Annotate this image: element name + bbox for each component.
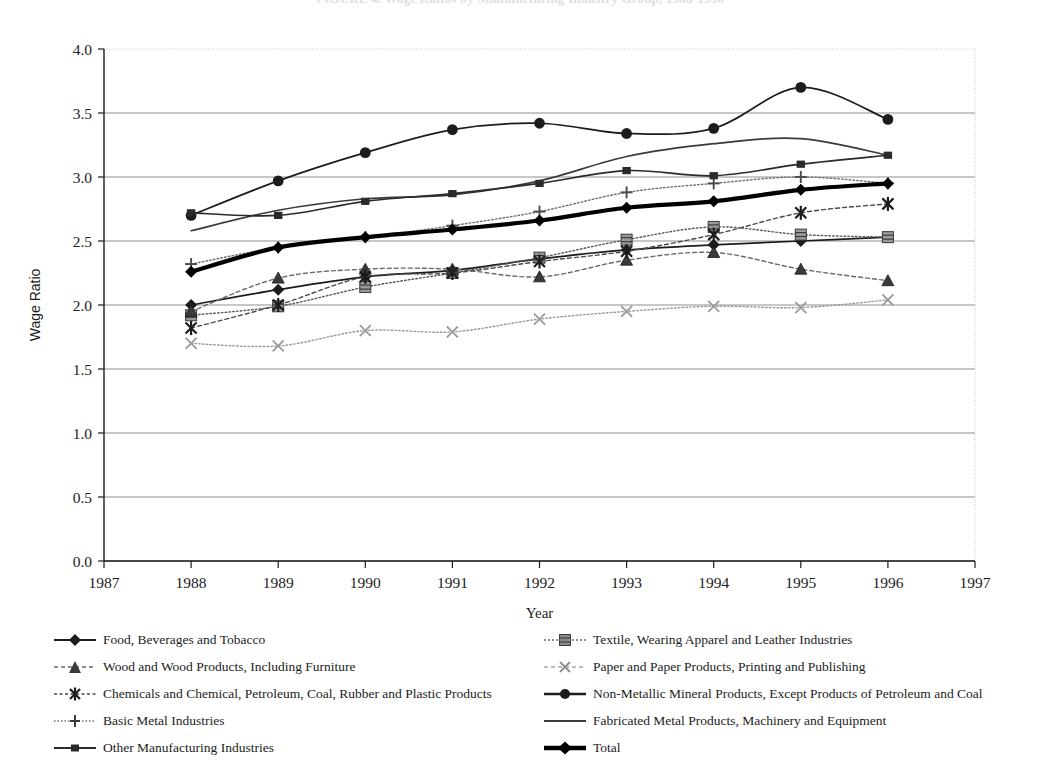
data-point-marker <box>361 198 369 205</box>
y-tick-label: 3.5 <box>73 105 93 122</box>
data-point-marker <box>708 228 719 242</box>
data-point-marker <box>797 161 805 168</box>
x-tick-label: 1992 <box>524 574 555 591</box>
data-point-marker <box>534 118 545 129</box>
legend-item-other-manufacturing: Other Manufacturing Industries <box>52 734 542 761</box>
data-point-marker <box>884 152 892 159</box>
legend-marker-plus-dotted-icon <box>52 711 98 731</box>
legend-marker-x-dashed-icon <box>542 657 588 677</box>
chart-legend: Food, Beverages and Tobacco Wood and Woo… <box>52 626 1032 756</box>
legend-label: Total <box>593 741 621 755</box>
y-tick-label: 1.5 <box>73 361 93 378</box>
data-point-marker <box>272 241 284 253</box>
legend-label: Textile, Wearing Apparel and Leather Ind… <box>593 633 852 647</box>
y-tick-label: 4.0 <box>73 41 93 58</box>
data-point-marker <box>621 202 633 214</box>
y-tick-label: 0.5 <box>73 489 93 506</box>
data-point-marker <box>185 266 197 278</box>
data-point-marker <box>272 284 284 296</box>
y-tick-label: 3.0 <box>73 169 93 186</box>
legend-item-paper-printing-publishing: Paper and Paper Products, Printing and P… <box>542 653 1032 680</box>
x-axis-title: Year <box>526 605 554 621</box>
x-tick-label: 1995 <box>785 574 816 591</box>
legend-item-basic-metal: Basic Metal Industries <box>52 707 542 734</box>
data-point-marker <box>708 195 720 207</box>
y-tick-label: 2.5 <box>73 233 93 250</box>
data-point-marker <box>447 124 458 135</box>
series-paper-and-paper-products-printing-and-publishing <box>186 294 894 351</box>
x-tick-label: 1989 <box>263 574 294 591</box>
series-line <box>191 87 888 215</box>
legend-column-left: Food, Beverages and Tobacco Wood and Woo… <box>52 626 542 761</box>
data-point-marker <box>535 180 543 187</box>
x-tick-label: 1993 <box>611 574 642 591</box>
axis-labels: 0.00.51.01.52.02.53.03.54.01987198819891… <box>27 41 991 622</box>
legend-marker-diamond-thick-icon <box>542 738 588 758</box>
data-point-marker <box>274 212 282 219</box>
data-point-marker <box>186 321 197 335</box>
legend-column-right: Textile, Wearing Apparel and Leather Ind… <box>542 626 1032 761</box>
x-tick-label: 1991 <box>437 574 468 591</box>
data-point-marker <box>622 167 630 174</box>
y-axis-title: Wage Ratio <box>27 268 43 341</box>
data-point-marker <box>795 184 807 196</box>
data-point-marker <box>448 190 456 197</box>
legend-marker-square-solid-icon <box>52 738 98 758</box>
data-point-marker <box>883 114 894 125</box>
legend-label: Other Manufacturing Industries <box>103 741 274 755</box>
x-tick-label: 1997 <box>960 574 991 591</box>
data-point-marker <box>534 215 546 227</box>
y-tick-label: 1.0 <box>73 425 93 442</box>
legend-marker-starx-dashed-icon <box>52 684 98 704</box>
x-tick-label: 1996 <box>872 574 903 591</box>
data-point-marker <box>882 232 893 243</box>
data-point-marker <box>710 172 718 179</box>
data-point-marker <box>708 123 719 134</box>
series-non-metallic-mineral-products-except-products-of-petroleum-and-coal <box>186 82 894 221</box>
data-point-marker <box>621 186 633 198</box>
data-point-marker <box>187 209 195 216</box>
legend-marker-diamond-solid-icon <box>52 630 98 650</box>
data-point-marker <box>273 175 284 186</box>
legend-item-textile-apparel-leather: Textile, Wearing Apparel and Leather Ind… <box>542 626 1032 653</box>
legend-marker-triangle-dashed-icon <box>52 657 98 677</box>
x-tick-label: 1990 <box>350 574 381 591</box>
legend-label: Food, Beverages and Tobacco <box>103 633 265 647</box>
series-line <box>191 300 888 347</box>
chart-figure: FIGURE 4. Wage Ratios by Manufacturing I… <box>0 0 1040 776</box>
legend-item-total: Total <box>542 734 1032 761</box>
legend-label: Basic Metal Industries <box>103 714 224 728</box>
y-tick-label: 2.0 <box>73 297 93 314</box>
legend-item-wood-products: Wood and Wood Products, Including Furnit… <box>52 653 542 680</box>
legend-marker-plain-line-icon <box>542 711 588 731</box>
legend-label: Non-Metallic Mineral Products, Except Pr… <box>593 687 983 701</box>
legend-label: Wood and Wood Products, Including Furnit… <box>103 660 356 674</box>
data-point-marker <box>621 128 632 139</box>
x-tick-label: 1994 <box>698 574 729 591</box>
data-point-marker <box>882 177 894 189</box>
line-chart-plot: 0.00.51.01.52.02.53.03.54.01987198819891… <box>0 0 1040 626</box>
legend-label: Paper and Paper Products, Printing and P… <box>593 660 866 674</box>
data-point-marker <box>795 229 806 240</box>
legend-label: Fabricated Metal Products, Machinery and… <box>593 714 886 728</box>
legend-marker-circle-solid-icon <box>542 684 588 704</box>
data-point-marker <box>360 147 371 158</box>
data-point-marker <box>621 234 632 245</box>
legend-item-food-beverages-tobacco: Food, Beverages and Tobacco <box>52 626 542 653</box>
y-tick-label: 0.0 <box>73 553 93 570</box>
series-group <box>185 82 894 351</box>
x-tick-label: 1988 <box>176 574 207 591</box>
legend-label: Chemicals and Chemical, Petroleum, Coal,… <box>103 687 492 701</box>
legend-item-chemicals: Chemicals and Chemical, Petroleum, Coal,… <box>52 680 542 707</box>
legend-item-non-metallic-mineral: Non-Metallic Mineral Products, Except Pr… <box>542 680 1032 707</box>
legend-item-fabricated-metal: Fabricated Metal Products, Machinery and… <box>542 707 1032 734</box>
data-point-marker <box>795 82 806 93</box>
legend-marker-hatchedsquare-dotted-icon <box>542 630 588 650</box>
data-point-marker <box>795 171 807 183</box>
x-tick-label: 1987 <box>89 574 120 591</box>
